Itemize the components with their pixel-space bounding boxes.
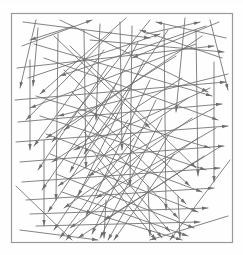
- random-segments-diagram: [0, 0, 243, 255]
- figure-container: [0, 0, 243, 255]
